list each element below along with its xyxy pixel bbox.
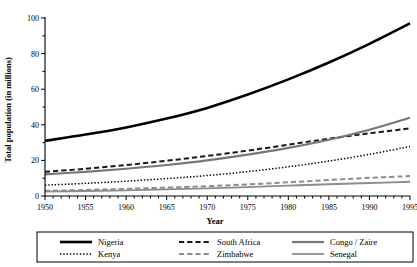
legend-label-senegal: Senegal bbox=[330, 249, 358, 259]
axis-layer bbox=[41, 17, 410, 200]
x-tick-label: 1960 bbox=[118, 203, 134, 212]
x-tick-label: 1990 bbox=[361, 203, 377, 212]
x-tick-label: 1995 bbox=[402, 203, 417, 212]
legend-label-congo-zaire: Congo / Zaire bbox=[330, 237, 377, 247]
y-tick-label: 0 bbox=[35, 192, 39, 201]
legend-item-kenya[interactable]: Kenya bbox=[60, 249, 120, 259]
legend-label-south-africa: South Africa bbox=[217, 237, 260, 247]
x-tick-label: 1955 bbox=[78, 203, 94, 212]
series-line-congo-zaire bbox=[45, 118, 410, 175]
y-tick-label: 100 bbox=[27, 14, 39, 23]
legend-item-senegal[interactable]: Senegal bbox=[292, 249, 358, 259]
legend-item-zimbabwe[interactable]: Zimbabwe bbox=[179, 249, 254, 259]
legend-label-kenya: Kenya bbox=[98, 249, 120, 259]
legend-item-south-africa[interactable]: South Africa bbox=[179, 237, 260, 247]
series-line-south-africa bbox=[45, 128, 410, 171]
x-tick-label: 1975 bbox=[240, 203, 256, 212]
plot-area: 0204060801001950195519601965197019751980… bbox=[27, 14, 417, 212]
x-tick-label: 1970 bbox=[199, 203, 215, 212]
legend-label-nigeria: Nigeria bbox=[98, 237, 124, 247]
y-tick-label: 80 bbox=[31, 50, 39, 59]
series-line-kenya bbox=[45, 147, 410, 186]
x-tick-label: 1965 bbox=[159, 203, 175, 212]
axis-spines bbox=[45, 17, 410, 196]
series-line-senegal bbox=[45, 182, 410, 192]
population-line-chart: 0204060801001950195519601965197019751980… bbox=[0, 0, 417, 267]
x-tick-label: 1985 bbox=[321, 203, 337, 212]
legend-item-nigeria[interactable]: Nigeria bbox=[60, 237, 124, 247]
y-tick-label: 20 bbox=[31, 156, 39, 165]
x-tick-label: 1950 bbox=[37, 203, 53, 212]
y-tick-label: 60 bbox=[31, 85, 39, 94]
chart-legend[interactable]: NigeriaKenyaSouth AfricaZimbabweCongo / … bbox=[37, 232, 413, 262]
series-line-nigeria bbox=[45, 23, 410, 140]
chart-figure: 0204060801001950195519601965197019751980… bbox=[0, 0, 417, 267]
x-axis-title: Year bbox=[207, 216, 224, 226]
legend-label-zimbabwe: Zimbabwe bbox=[217, 249, 254, 259]
y-axis-title: Total population (in millions) bbox=[3, 57, 13, 163]
series-layer bbox=[45, 23, 410, 191]
tick-label-layer: 0204060801001950195519601965197019751980… bbox=[27, 14, 417, 212]
y-tick-label: 40 bbox=[31, 121, 39, 130]
legend-item-congo-zaire[interactable]: Congo / Zaire bbox=[292, 237, 377, 247]
x-tick-label: 1980 bbox=[280, 203, 296, 212]
